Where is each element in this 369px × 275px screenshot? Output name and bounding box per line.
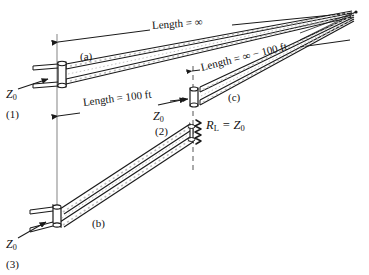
label-z0-mid: Z0	[153, 110, 164, 124]
transmission-line-b	[60, 124, 195, 227]
z0-top-subscript: 0	[13, 93, 17, 102]
figure-canvas	[0, 0, 369, 275]
rl-symbol: R	[206, 118, 214, 132]
terminal-post-1	[18, 61, 66, 89]
transmission-line-figure: Length = ∞ Length = 100 ft Length = ∞ − …	[0, 0, 369, 275]
z0-mid-symbol: Z	[153, 109, 160, 123]
load-resistor-symbol	[195, 120, 201, 144]
label-rl-equals-z0: RL = Z0	[206, 119, 245, 133]
callout-line-c: (c)	[228, 92, 240, 103]
terminal-post-2	[158, 87, 198, 107]
z0-bottom-symbol: Z	[6, 237, 13, 251]
reference-guide-lines	[57, 34, 193, 215]
transmission-line-a	[66, 11, 352, 84]
z0-top-symbol: Z	[6, 87, 13, 101]
callout-line-a: (a)	[80, 51, 92, 62]
terminal-post-3	[18, 205, 61, 238]
label-z0-top: Z0	[6, 88, 17, 102]
circuit-number-2: (2)	[155, 126, 168, 137]
label-z0-bottom: Z0	[6, 238, 17, 252]
circuit-number-3: (3)	[6, 259, 19, 270]
z0-bottom-subscript: 0	[13, 243, 17, 252]
callout-line-b: (b)	[92, 218, 105, 229]
circuit-number-1: (1)	[6, 109, 19, 120]
z0-mid-subscript: 0	[160, 115, 164, 124]
rl-z0-subscript: 0	[240, 123, 244, 133]
rl-equals: = Z	[219, 118, 241, 132]
